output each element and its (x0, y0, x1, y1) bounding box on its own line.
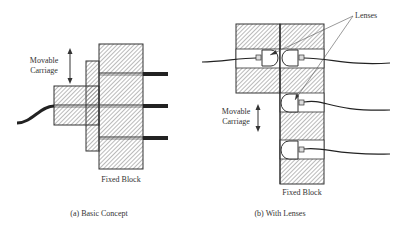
fixed-block-a (99, 44, 143, 169)
figure-canvas: Movable Carriage Fixed Block (a) Basic C… (0, 0, 405, 231)
movable-carriage-a (54, 61, 99, 151)
panel-with-lenses: Lenses Movable Carriage Fixed Block (b) … (202, 11, 390, 218)
label-fixed-block-a: Fixed Block (101, 175, 140, 184)
label-movable-carriage-a-line1: Movable (30, 56, 59, 65)
caption-b: (b) With Lenses (254, 209, 305, 218)
label-movable-carriage-a-line2: Carriage (30, 66, 58, 75)
label-movable-carriage-b-line1: Movable (222, 107, 251, 116)
panel-basic-concept: Movable Carriage Fixed Block (a) Basic C… (17, 44, 168, 218)
double-arrow-icon (256, 104, 261, 132)
label-movable-carriage-b-line2: Carriage (222, 117, 250, 126)
caption-a: (a) Basic Concept (70, 209, 128, 218)
label-lenses: Lenses (355, 11, 377, 20)
label-fixed-block-b: Fixed Block (282, 188, 321, 197)
double-arrow-icon (68, 48, 73, 84)
